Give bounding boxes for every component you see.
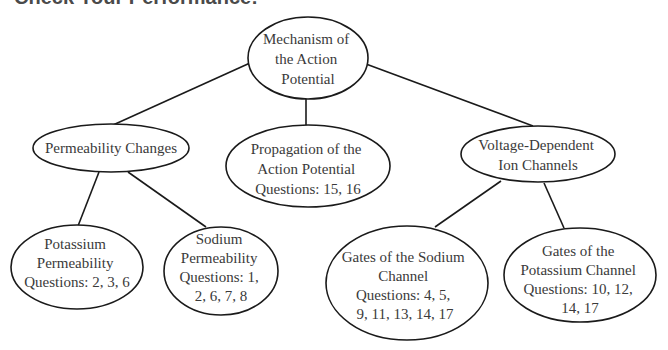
concept-map: Check Your Performance: Mechanism of the — [0, 0, 668, 350]
node-propagation-label: Propagation of the Action Potential Ques… — [251, 141, 366, 197]
edge-permeability-potassium — [78, 172, 99, 226]
concept-map-svg: Mechanism of the Action Potential Permea… — [0, 0, 668, 350]
node-voltage — [461, 126, 615, 182]
edge-voltage-gates-sodium — [435, 181, 501, 227]
node-permeability-label: Permeability Changes — [45, 140, 177, 156]
edge-mechanism-permeability — [113, 63, 250, 125]
edge-permeability-sodium — [128, 172, 206, 227]
edge-voltage-gates-potassium — [544, 183, 564, 228]
edge-mechanism-voltage — [366, 64, 533, 126]
